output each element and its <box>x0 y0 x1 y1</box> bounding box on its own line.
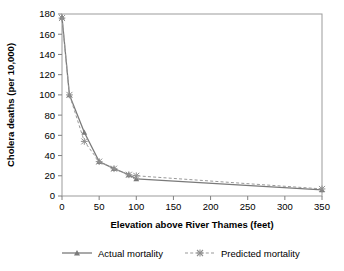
x-tick-label: 50 <box>94 201 105 212</box>
y-tick-label: 20 <box>44 170 55 181</box>
asterisk-marker-icon <box>197 249 204 256</box>
chart-legend: Actual mortality Predicted mortality <box>62 248 300 259</box>
chart-figure: 020406080100120140160180 050100150200250… <box>0 0 344 271</box>
x-tick-label: 200 <box>203 201 219 212</box>
asterisk-marker-icon <box>319 186 326 193</box>
data-series-layer <box>59 14 326 192</box>
y-axis-ticks: 020406080100120140160180 <box>39 8 62 201</box>
plot-area-border <box>62 14 322 196</box>
y-tick-label: 40 <box>44 150 55 161</box>
triangle-marker-icon <box>81 129 87 134</box>
y-tick-label: 0 <box>50 190 55 201</box>
y-tick-label: 160 <box>39 29 55 40</box>
series-actual-mortality <box>59 14 325 192</box>
x-tick-label: 250 <box>240 201 256 212</box>
y-tick-label: 180 <box>39 8 55 19</box>
y-tick-label: 100 <box>39 89 55 100</box>
series-predicted-mortality <box>59 15 326 193</box>
y-tick-label: 120 <box>39 69 55 80</box>
asterisk-marker-icon <box>59 15 66 22</box>
x-tick-label: 300 <box>277 201 293 212</box>
legend-item-predicted-mortality[interactable]: Predicted mortality <box>185 248 300 259</box>
x-axis-title: Elevation above River Thames (feet) <box>110 219 273 230</box>
asterisk-marker-icon <box>96 158 103 165</box>
asterisk-marker-icon <box>111 165 118 172</box>
y-tick-label: 80 <box>44 110 55 121</box>
x-tick-label: 0 <box>59 201 64 212</box>
y-tick-label: 140 <box>39 49 55 60</box>
legend-label-actual: Actual mortality <box>98 248 163 259</box>
x-tick-label: 100 <box>128 201 144 212</box>
x-tick-label: 150 <box>165 201 181 212</box>
y-tick-label: 60 <box>44 130 55 141</box>
plot-frame <box>62 14 322 196</box>
legend-label-predicted: Predicted mortality <box>221 248 300 259</box>
cholera-mortality-line-chart: 020406080100120140160180 050100150200250… <box>0 0 344 271</box>
asterisk-marker-icon <box>66 91 73 98</box>
x-axis-ticks: 050100150200250300350 <box>59 196 330 212</box>
asterisk-marker-icon <box>125 171 132 178</box>
legend-item-actual-mortality[interactable]: Actual mortality <box>62 248 163 259</box>
y-axis-title: Cholera deaths (per 10,000) <box>5 43 16 167</box>
asterisk-marker-icon <box>81 138 88 145</box>
asterisk-marker-icon <box>133 172 140 179</box>
x-tick-label: 350 <box>314 201 330 212</box>
